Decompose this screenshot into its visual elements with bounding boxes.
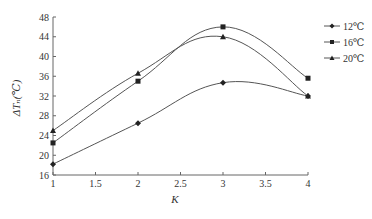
diamond-marker-icon [50, 161, 56, 167]
y-tick-label: 32 [39, 91, 49, 102]
y-tick-label: 20 [39, 150, 49, 161]
x-tick-label: 4 [306, 178, 311, 189]
diamond-marker-icon [330, 24, 335, 29]
legend-label: 12℃ [343, 21, 364, 32]
y-tick-label: 40 [39, 51, 49, 62]
y-tick-label: 16 [39, 170, 49, 181]
legend-label: 20℃ [343, 53, 364, 64]
y-tick-label: 28 [39, 110, 49, 121]
square-marker-icon [51, 140, 56, 145]
y-tick-label: 24 [39, 130, 49, 141]
legend-item: 20℃ [324, 53, 364, 64]
series-line [53, 36, 308, 130]
x-tick-label: 3.5 [259, 178, 272, 189]
x-axis-title: K [170, 193, 179, 205]
y-tick-label: 44 [39, 31, 49, 42]
x-tick-label: 1.5 [89, 178, 102, 189]
legend-label: 16℃ [343, 37, 364, 48]
x-tick-label: 3 [221, 178, 226, 189]
diamond-marker-icon [135, 120, 141, 126]
axes: 16202428323640444811.522.533.54 [39, 12, 311, 190]
line-chart: 16202428323640444811.522.533.54 12℃16℃20… [0, 0, 372, 219]
square-marker-icon [330, 40, 334, 44]
legend: 12℃16℃20℃ [324, 21, 364, 64]
x-tick-label: 1 [51, 178, 56, 189]
series-16℃ [51, 24, 311, 145]
chart-canvas: 16202428323640444811.522.533.54 12℃16℃20… [0, 0, 372, 219]
y-tick-label: 48 [39, 12, 49, 23]
series-line [53, 27, 308, 143]
y-tick-label: 36 [39, 71, 49, 82]
square-marker-icon [221, 24, 226, 29]
triangle-marker-icon [135, 70, 141, 76]
legend-item: 16℃ [324, 37, 364, 48]
y-axis-title: ΔTₙ(℃) [10, 79, 23, 117]
square-marker-icon [306, 76, 311, 81]
diamond-marker-icon [220, 80, 226, 86]
x-tick-label: 2 [136, 178, 141, 189]
x-tick-label: 2.5 [174, 178, 187, 189]
legend-item: 12℃ [324, 21, 364, 32]
square-marker-icon [136, 79, 141, 84]
series-group [50, 24, 311, 167]
series-line [53, 82, 308, 165]
triangle-marker-icon [50, 128, 56, 134]
series-12℃ [50, 80, 311, 167]
